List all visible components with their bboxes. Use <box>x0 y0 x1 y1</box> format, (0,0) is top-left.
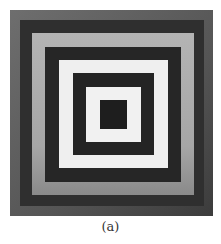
figure-caption: (a) <box>0 219 221 234</box>
center-dark-square <box>100 100 127 129</box>
concentric-squares-figure: (a) <box>0 0 221 244</box>
